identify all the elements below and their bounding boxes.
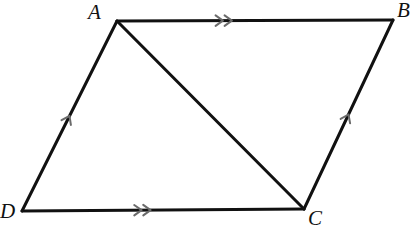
geometry-figure-canvas: A B C D: [0, 0, 412, 247]
vertex-label-c: C: [308, 208, 322, 229]
edge-ab: [117, 20, 393, 21]
vertex-label-b: B: [397, 0, 410, 21]
parallelogram-diagram-svg: [0, 0, 412, 247]
edge-ac: [117, 21, 304, 209]
vertex-label-a: A: [88, 2, 101, 23]
edge-layer: [22, 20, 393, 211]
vertex-label-d: D: [0, 201, 15, 222]
edge-dc: [22, 209, 304, 211]
